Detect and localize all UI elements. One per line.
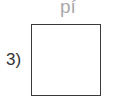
top-label: pí: [60, 0, 76, 18]
answer-box[interactable]: [31, 24, 101, 96]
exercise-number: 3): [6, 50, 21, 70]
